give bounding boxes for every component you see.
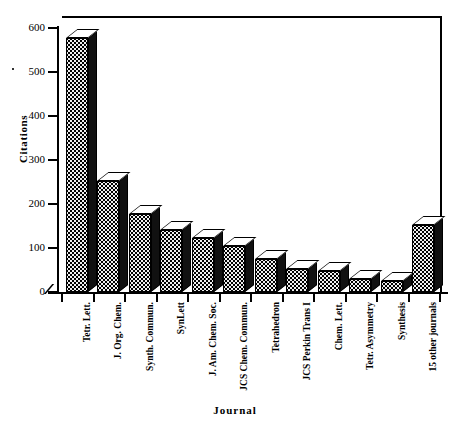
y-axis-tick	[48, 71, 57, 73]
x-axis-title: Journal	[0, 404, 470, 416]
bar	[66, 38, 88, 292]
bar-front-face	[66, 38, 88, 292]
bar-front-face	[97, 181, 119, 292]
y-axis-tick	[48, 159, 57, 161]
bar	[412, 225, 434, 292]
bar	[129, 214, 151, 292]
y-axis-tick	[48, 291, 57, 293]
x-axis-tick	[124, 294, 126, 302]
x-axis-tick	[439, 294, 441, 302]
y-axis-tick-label: 0	[40, 286, 46, 297]
y-axis-tick	[48, 247, 57, 249]
bar	[160, 230, 182, 292]
x-axis-tick	[187, 294, 189, 302]
bar-front-face	[129, 214, 151, 292]
bar	[286, 269, 308, 292]
y-axis-tick	[48, 27, 57, 29]
y-axis-line	[57, 26, 59, 292]
x-axis-tick	[282, 294, 284, 302]
bar-side-face	[214, 231, 223, 292]
bar	[255, 259, 277, 292]
x-axis-category-label: J. Org. Chem.	[113, 302, 123, 359]
bar-front-face	[318, 271, 340, 292]
bar-side-face	[182, 223, 191, 292]
scan-artifact-speck	[12, 68, 14, 70]
bar	[192, 238, 214, 292]
x-axis-tick	[61, 294, 63, 302]
bar	[97, 181, 119, 292]
x-axis-tick	[156, 294, 158, 302]
x-axis-tick	[250, 294, 252, 302]
bar-front-face	[160, 230, 182, 292]
x-axis-category-label: Synth. Commun.	[145, 302, 155, 371]
x-axis-tick	[93, 294, 95, 302]
y-axis-tick-label: 500	[29, 66, 46, 77]
bar-front-face	[381, 281, 403, 292]
bar-side-face	[151, 207, 160, 292]
x-axis-category-label: 15 other journals	[428, 302, 438, 372]
bar-front-face	[192, 238, 214, 292]
y-axis-tick	[48, 115, 57, 117]
x-axis-tick	[313, 294, 315, 302]
bar	[349, 279, 371, 292]
x-axis-tick	[345, 294, 347, 302]
bar-front-face	[349, 279, 371, 292]
y-axis-tick-label: 100	[29, 242, 46, 253]
bar-front-face	[223, 246, 245, 292]
x-axis-category-label: Chem. Lett.	[334, 302, 344, 350]
x-axis-category-label: Tetrahedron	[271, 302, 281, 353]
x-axis-line	[48, 292, 448, 294]
x-axis-category-label: JCS Chem. Commun.	[239, 302, 249, 391]
x-axis-category-label: J. Am. Chem. Soc.	[208, 302, 218, 376]
x-axis-tick	[376, 294, 378, 302]
x-axis-tick	[219, 294, 221, 302]
y-axis-tick	[48, 203, 57, 205]
bar-side-face	[119, 174, 128, 292]
bar	[318, 271, 340, 292]
x-axis-tick	[408, 294, 410, 302]
y-axis-tick-label: 200	[29, 198, 46, 209]
bar	[223, 246, 245, 292]
x-axis-category-label: Synthesis	[397, 302, 407, 340]
y-axis-tick-label: 600	[29, 22, 46, 33]
x-axis-category-label: SynLett	[176, 302, 186, 334]
bar	[381, 281, 403, 292]
bar-side-face	[245, 239, 254, 292]
x-axis-category-label: Tetr. Asymmetry	[365, 302, 375, 370]
bar-side-face	[88, 31, 97, 292]
x-axis-category-label: JCS Perkin Trans I	[302, 302, 312, 381]
x-axis-category-label: Tetr. Lett.	[82, 302, 92, 342]
bar-front-face	[255, 259, 277, 292]
bar-side-face	[434, 218, 443, 292]
citations-bar-chart: 0100200300400500600 Tetr. Lett.J. Org. C…	[0, 0, 470, 430]
bar-front-face	[412, 225, 434, 292]
y-axis-title: Citations	[17, 89, 35, 189]
bar-front-face	[286, 269, 308, 292]
